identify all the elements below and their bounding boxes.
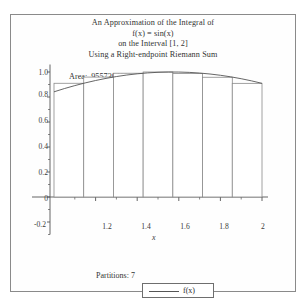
y-tick-label-4: 0.4 bbox=[22, 142, 48, 151]
title-line-1: An Approximation of the Integral of bbox=[11, 18, 295, 29]
y-tick-label-3: 0.6 bbox=[22, 116, 48, 125]
y-tick-label-5: 0.2 bbox=[22, 168, 48, 177]
y-tick-label-6: 0 bbox=[22, 194, 48, 203]
legend-box: f(x) bbox=[142, 283, 214, 298]
x-tick-label-3: 1.6 bbox=[173, 222, 197, 231]
area-readout: Area: .9557304698 bbox=[69, 72, 132, 81]
title-line-3: on the Interval [1, 2] bbox=[11, 39, 295, 50]
legend-label-fx: f(x) bbox=[183, 286, 195, 295]
x-tick-label-4: 1.8 bbox=[212, 222, 236, 231]
y-tick-label-1: 1.0 bbox=[22, 68, 48, 77]
x-tick-label-1: 1.2 bbox=[95, 222, 119, 231]
legend-swatch-fx bbox=[149, 291, 179, 292]
partitions-readout: Partitions: 7 bbox=[96, 271, 135, 280]
title-line-2: f(x) = sin(x) bbox=[11, 29, 295, 40]
title-line-4: Using a Right-endpoint Riemann Sum bbox=[11, 50, 295, 61]
y-tick-label-7: -0.2 bbox=[20, 220, 46, 229]
y-tick-label-2: 0.8 bbox=[22, 90, 48, 99]
x-axis-title: x bbox=[152, 233, 156, 242]
plot-frame: An Approximation of the Integral of f(x)… bbox=[10, 14, 296, 292]
plot-title: An Approximation of the Integral of f(x)… bbox=[11, 18, 295, 60]
x-tick-label-5: 2 bbox=[251, 222, 275, 231]
x-tick-label-2: 1.4 bbox=[134, 222, 158, 231]
